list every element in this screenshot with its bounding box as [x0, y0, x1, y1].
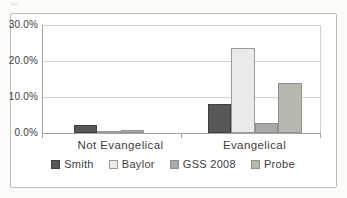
- bar-smith-not-evangelical: [74, 125, 98, 133]
- y-tick-label-3: 30.0%: [0, 19, 38, 30]
- x-axis-tick-0: [42, 134, 43, 138]
- legend-label-probe: Probe: [264, 158, 295, 170]
- bar-probe-evangelical: [278, 83, 302, 133]
- gridline-20.0%: [42, 61, 320, 62]
- category-label-evangelical: Evangelical: [223, 139, 286, 151]
- plot-right-edge: [320, 25, 321, 133]
- legend-swatch-gss-2008: [170, 160, 179, 169]
- y-tick-label-2: 20.0%: [0, 55, 38, 66]
- bar-smith-evangelical: [208, 104, 232, 133]
- category-label-not-evangelical: Not Evangelical: [78, 139, 164, 151]
- legend-swatch-smith: [51, 160, 60, 169]
- chart-image: 0.0%10.0%20.0%30.0% Not EvangelicalEvang…: [0, 0, 347, 198]
- legend: SmithBaylorGSS 2008Probe: [10, 158, 336, 170]
- y-tick-label-0: 0.0%: [0, 127, 38, 138]
- legend-item-probe: Probe: [251, 158, 295, 170]
- legend-swatch-probe: [251, 160, 260, 169]
- y-tick-label-1: 10.0%: [0, 91, 38, 102]
- cropped-text-artifact: [10, 0, 18, 5]
- legend-item-gss-2008: GSS 2008: [170, 158, 236, 170]
- legend-item-baylor: Baylor: [109, 158, 155, 170]
- legend-label-gss-2008: GSS 2008: [183, 158, 236, 170]
- y-axis-line: [42, 25, 43, 137]
- x-axis-tick-1: [181, 134, 182, 138]
- legend-item-smith: Smith: [51, 158, 94, 170]
- legend-swatch-baylor: [109, 160, 118, 169]
- gridline-30.0%: [42, 25, 320, 26]
- legend-label-baylor: Baylor: [122, 158, 155, 170]
- bar-baylor-evangelical: [231, 48, 255, 133]
- x-axis-tick-2: [320, 134, 321, 138]
- legend-label-smith: Smith: [64, 158, 94, 170]
- bar-gss-2008-evangelical: [255, 123, 279, 133]
